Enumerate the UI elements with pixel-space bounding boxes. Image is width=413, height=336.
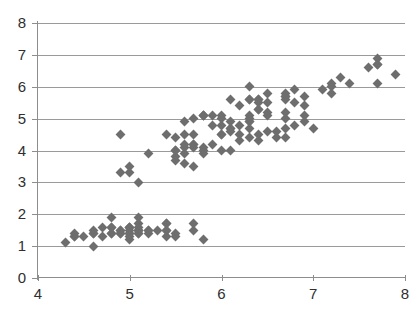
data-point-marker [272, 133, 282, 143]
data-point-marker [134, 177, 144, 187]
y-tick-label: 4 [0, 143, 26, 158]
data-point-marker [391, 69, 401, 79]
data-point-marker [88, 241, 98, 251]
gridline-y [38, 214, 405, 215]
data-point-marker [161, 130, 171, 140]
data-point-marker [290, 98, 300, 108]
x-tick-label: 8 [393, 286, 413, 301]
y-tick-label: 5 [0, 111, 26, 126]
data-point-marker [253, 136, 263, 146]
data-point-marker [152, 225, 162, 235]
data-point-marker [125, 168, 135, 178]
gridline-y [38, 182, 405, 183]
x-tick-label: 5 [118, 286, 142, 301]
y-tick-label: 1 [0, 238, 26, 253]
y-tick-label: 6 [0, 79, 26, 94]
data-point-marker [373, 59, 383, 69]
data-point-marker [244, 82, 254, 92]
data-point-marker [336, 72, 346, 82]
data-point-marker [262, 98, 272, 108]
y-tick-label: 7 [0, 47, 26, 62]
data-point-marker [226, 95, 236, 105]
y-tick-label: 3 [0, 174, 26, 189]
gridline-y [38, 55, 405, 56]
y-tick-label: 0 [0, 270, 26, 285]
data-point-marker [235, 101, 245, 111]
x-tick-label: 6 [210, 286, 234, 301]
y-tick-label: 2 [0, 206, 26, 221]
data-point-marker [189, 130, 199, 140]
data-point-marker [235, 120, 245, 130]
data-point-marker [281, 133, 291, 143]
scatter-chart: 012345678 45678 [0, 0, 413, 336]
data-point-marker [244, 95, 254, 105]
data-point-marker [235, 136, 245, 146]
x-tick-mark [405, 275, 406, 281]
x-tick-label: 4 [26, 286, 50, 301]
data-point-marker [327, 88, 337, 98]
data-point-marker [116, 130, 126, 140]
data-point-marker [189, 161, 199, 171]
plot-area [38, 23, 405, 278]
data-point-marker [226, 146, 236, 156]
data-point-marker [198, 235, 208, 245]
y-tick-label: 8 [0, 15, 26, 30]
gridline-y [38, 23, 405, 24]
data-point-marker [207, 139, 217, 149]
x-tick-label: 7 [301, 286, 325, 301]
data-point-marker [308, 123, 318, 133]
data-point-marker [290, 120, 300, 130]
data-point-marker [180, 130, 190, 140]
